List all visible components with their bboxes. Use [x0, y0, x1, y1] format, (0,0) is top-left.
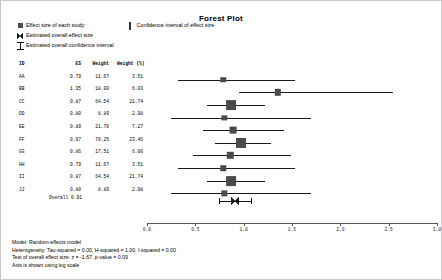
column-header-weight-pct: Weight (%)	[117, 61, 143, 66]
footer-line-axis-scale: Axis is shown using log scale	[12, 262, 432, 270]
effect-size-marker	[230, 127, 237, 134]
axis-tick	[389, 223, 390, 226]
cell-weight: 8.89	[83, 187, 109, 192]
axis-tick	[244, 223, 245, 226]
cell-id: FF	[19, 137, 25, 142]
cell-es: 1.35	[59, 86, 81, 91]
table-row: JJ0.808.892.98	[19, 187, 147, 200]
axis-tick-label: 2.0	[336, 227, 344, 232]
cell-es: 0.79	[59, 74, 81, 79]
effect-size-marker	[227, 152, 233, 158]
axis-tick	[292, 223, 293, 226]
cell-id: GG	[19, 149, 25, 154]
cell-weight-pct: 23.46	[117, 137, 143, 142]
effect-size-marker	[222, 115, 227, 120]
forest-row	[147, 174, 437, 187]
effect-size-marker	[221, 165, 227, 171]
cell-es: 0.87	[59, 99, 81, 104]
overall-es: 0.91	[71, 195, 82, 200]
overall-effect-diamond	[231, 197, 239, 205]
footer-notes: Model: Random-effects model Heterogeneit…	[12, 239, 432, 269]
table-row: BB1.3518.006.03	[19, 86, 147, 99]
plot-area: ID ES Weight Weight (%) AA0.7911.673.51B…	[1, 61, 442, 221]
axis-tick-label: 0.0	[143, 227, 151, 232]
cell-es: 0.79	[59, 162, 81, 167]
table-row: II0.8764.5421.74	[19, 174, 147, 187]
cell-weight-pct: 6.03	[117, 86, 143, 91]
cell-id: HH	[19, 162, 25, 167]
confidence-interval-line	[203, 130, 284, 131]
forest-row	[147, 149, 437, 162]
forest-row	[147, 99, 437, 112]
cell-weight: 11.67	[83, 162, 109, 167]
forest-markers	[147, 61, 437, 221]
cell-es: 0.97	[59, 137, 81, 142]
effect-size-marker	[221, 77, 227, 83]
column-header-id: ID	[19, 61, 25, 66]
forest-row	[147, 111, 437, 124]
cell-id: DD	[19, 111, 25, 116]
column-header-weight: Weight	[83, 61, 109, 66]
effect-size-marker	[274, 89, 280, 95]
axis-tick-label: 2.5	[385, 227, 393, 232]
overall-summary-label: Overall 0.91	[49, 195, 82, 200]
overall-diamond-row	[147, 195, 437, 207]
legend-item-label: Estimated overall effect size	[26, 31, 93, 40]
axis-tick-label: 1.0	[240, 227, 248, 232]
axis-tick-label: 1.5	[288, 227, 296, 232]
effect-size-marker	[226, 176, 236, 186]
cell-id: EE	[19, 124, 25, 129]
cell-id: CC	[19, 99, 25, 104]
cell-weight-pct: 7.27	[117, 124, 143, 129]
forest-row	[147, 86, 437, 99]
legend-item-confidence-interval: Confidence interval of effect size	[129, 21, 214, 30]
vline-marker-icon	[129, 22, 131, 30]
axis-tick	[437, 223, 438, 226]
cell-weight-pct: 6.00	[117, 149, 143, 154]
cell-es: 0.89	[59, 124, 81, 129]
cell-weight-pct: 2.98	[117, 111, 143, 116]
axis-tick	[195, 223, 196, 226]
footer-line-heterogeneity: Heterogeneity: Tau-squared = 0.00, H-squ…	[12, 247, 432, 255]
overall-label: Overall	[49, 195, 68, 200]
cell-id: II	[19, 174, 25, 179]
axis-tick	[340, 223, 341, 226]
cell-es: 0.80	[59, 111, 81, 116]
cell-weight: 64.54	[83, 174, 109, 179]
forest-row	[147, 162, 437, 175]
cell-weight: 64.54	[83, 99, 109, 104]
x-axis: 0.00.51.01.52.02.53.0	[147, 223, 437, 239]
cell-weight-pct: 3.51	[117, 74, 143, 79]
study-table: ID ES Weight Weight (%) AA0.7911.673.51B…	[19, 61, 147, 200]
cell-weight-pct: 21.74	[117, 174, 143, 179]
column-header-es: ES	[59, 61, 81, 66]
ibar-marker-icon	[14, 42, 26, 50]
legend-item-label: Effect size of each study	[26, 21, 84, 30]
axis-tick-label: 0.5	[191, 227, 199, 232]
confidence-interval-line	[178, 168, 295, 169]
axis-tick-label: 3.0	[433, 227, 441, 232]
confidence-interval-line	[171, 193, 311, 194]
confidence-interval-line	[239, 92, 394, 93]
legend-item-overall-ci: Estimated overall confidence interval	[14, 41, 314, 50]
square-marker-icon	[14, 23, 26, 28]
overall-ci-cap	[219, 198, 220, 204]
forest-row	[147, 137, 437, 150]
table-row: AA0.7911.673.51	[19, 74, 147, 87]
table-row: CC0.8764.5421.74	[19, 99, 147, 112]
cell-weight-pct: 3.51	[117, 162, 143, 167]
cell-weight: 21.70	[83, 124, 109, 129]
cell-id: BB	[19, 86, 25, 91]
table-row: HH0.7911.673.51	[19, 162, 147, 175]
forest-row	[147, 124, 437, 137]
axis-tick	[147, 223, 148, 226]
cell-weight-pct: 2.98	[117, 187, 143, 192]
footer-line-model: Model: Random-effects model	[12, 239, 432, 247]
legend-item-label: Confidence interval of effect size	[137, 21, 215, 30]
diamond-marker-icon	[14, 33, 26, 39]
cell-es: 0.80	[59, 187, 81, 192]
table-row: EE0.8921.707.27	[19, 124, 147, 137]
cell-weight-pct: 21.74	[117, 99, 143, 104]
cell-id: JJ	[19, 187, 25, 192]
cell-weight: 11.67	[83, 74, 109, 79]
